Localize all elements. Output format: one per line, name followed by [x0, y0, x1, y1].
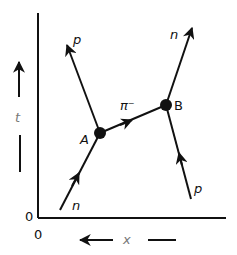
label-pi-minus: π⁻ — [120, 98, 135, 113]
t-origin-label: 0 — [25, 209, 33, 224]
worldline-p-out — [67, 45, 100, 133]
arrow-n-in-icon — [72, 173, 79, 186]
vertex-b-label: B — [174, 98, 183, 113]
vertex-b — [160, 99, 172, 111]
t-axis-label: t — [15, 110, 21, 125]
label-p-in: p — [193, 181, 202, 196]
arrow-pi-icon — [120, 120, 132, 125]
x-origin-label: 0 — [34, 227, 42, 242]
worldline-p-in — [166, 105, 191, 199]
label-n-out: n — [170, 27, 178, 42]
vertex-a-label: A — [79, 132, 89, 147]
spacetime-diagram: t 0 0 x n p π⁻ n p A B — [0, 0, 237, 255]
label-n-in: n — [72, 198, 80, 213]
vertex-a — [94, 127, 106, 139]
label-p-out: p — [72, 32, 81, 47]
x-axis-label: x — [122, 232, 131, 247]
